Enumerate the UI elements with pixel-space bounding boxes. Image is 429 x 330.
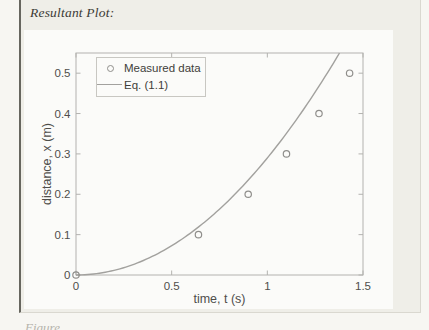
x-tick-label: 0 xyxy=(73,280,79,292)
data-point-marker xyxy=(195,231,201,237)
clipped-caption: Figure xyxy=(25,321,60,330)
measured-data-series xyxy=(73,70,353,278)
data-point-marker xyxy=(346,70,352,76)
legend-label: Measured data xyxy=(124,62,201,74)
x-axis-label: time, t (s) xyxy=(76,292,363,306)
legend-label: Eq. (1.1) xyxy=(124,79,168,91)
y-axis-label: distance, x (m) xyxy=(40,123,54,205)
y-tick-label: 0.2 xyxy=(55,188,71,200)
legend-entry-measured-data: Measured data xyxy=(97,60,205,77)
y-tick-label: 0.3 xyxy=(55,148,71,160)
x-tick-label: 1 xyxy=(264,280,270,292)
x-tick-label: 0.5 xyxy=(164,280,180,292)
data-point-marker xyxy=(316,110,322,116)
plot-canvas: 00.511.500.10.20.30.40.5 xyxy=(0,0,429,330)
legend: Measured data Eq. (1.1) xyxy=(96,57,206,97)
y-tick-label: 0.4 xyxy=(55,108,72,120)
data-point-marker xyxy=(283,151,289,157)
y-tick-label: 0.1 xyxy=(55,229,71,241)
tick-labels: 00.511.500.10.20.30.40.5 xyxy=(55,67,372,291)
data-point-marker xyxy=(245,191,251,197)
legend-entry-eq-line: Eq. (1.1) xyxy=(97,77,205,94)
y-tick-label: 0 xyxy=(64,269,70,281)
circle-marker-icon xyxy=(97,65,124,72)
line-sample-icon xyxy=(97,84,124,85)
x-tick-label: 1.5 xyxy=(355,280,371,292)
y-tick-label: 0.5 xyxy=(55,67,71,79)
